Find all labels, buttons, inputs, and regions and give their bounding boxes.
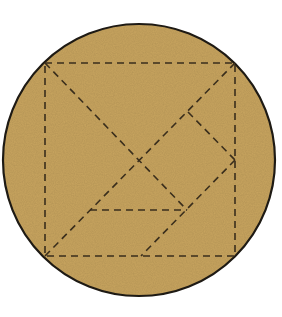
tangram-diagram — [0, 0, 282, 317]
